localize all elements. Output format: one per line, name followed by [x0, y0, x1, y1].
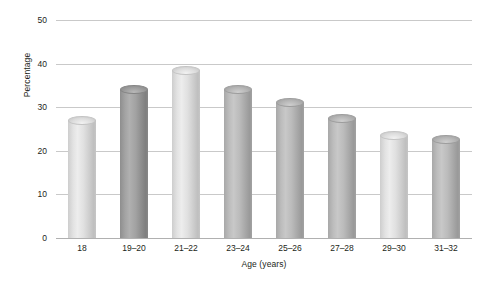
bar-body [224, 90, 252, 238]
bar[interactable] [328, 118, 356, 238]
gridline [56, 107, 472, 108]
bar[interactable] [432, 140, 460, 238]
bar[interactable] [120, 90, 148, 238]
x-axis-tick-label: 29–30 [368, 243, 420, 253]
x-axis-tick-label: 31–32 [420, 243, 472, 253]
x-axis-title: Age (years) [56, 259, 472, 269]
bar-body [380, 136, 408, 238]
bar[interactable] [380, 136, 408, 238]
bar-top-ellipse [172, 66, 200, 75]
y-axis-tick-label: 30 [7, 102, 47, 112]
gridline [56, 64, 472, 65]
bar[interactable] [68, 120, 96, 238]
bar-body [172, 70, 200, 238]
x-axis-tick-label: 21–22 [160, 243, 212, 253]
bar-body [68, 120, 96, 238]
x-axis-tick-label: 18 [56, 243, 108, 253]
plot-area [56, 20, 472, 238]
bar-top-ellipse [328, 114, 356, 123]
x-axis-tick-label: 25–26 [264, 243, 316, 253]
y-axis-tick-label: 20 [7, 146, 47, 156]
gridline [56, 20, 472, 21]
y-axis-tick-label: 0 [7, 233, 47, 243]
y-axis-tick-label: 10 [7, 189, 47, 199]
x-axis-tick-label: 19–20 [108, 243, 160, 253]
bar-body [432, 140, 460, 238]
bar-body [328, 118, 356, 238]
bar-top-ellipse [380, 131, 408, 140]
y-axis-tick-labels: 01020304050 [0, 20, 52, 238]
gridline [56, 151, 472, 152]
bar-top-ellipse [68, 116, 96, 125]
x-axis-tick-label: 23–24 [212, 243, 264, 253]
bar-body [276, 103, 304, 238]
y-axis-tick-label: 40 [7, 59, 47, 69]
axis-baseline [56, 238, 472, 239]
x-axis-tick-label: 27–28 [316, 243, 368, 253]
bar-chart: Percentage 01020304050 1819–2021–2223–24… [0, 0, 497, 283]
bar-body [120, 90, 148, 238]
y-axis-tick-label: 50 [7, 15, 47, 25]
bar[interactable] [224, 90, 252, 238]
gridline [56, 194, 472, 195]
bar[interactable] [276, 103, 304, 238]
bar[interactable] [172, 70, 200, 238]
